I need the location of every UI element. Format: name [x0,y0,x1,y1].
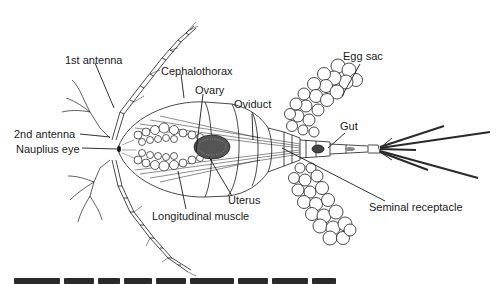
label-egg-sac: Egg sac [343,50,383,62]
label-oviduct: Oviduct [234,98,271,110]
label-seminal-receptacle: Seminal receptacle [369,201,463,213]
caudal-setae [380,126,490,178]
egg-sac-lower [289,163,357,245]
label-longitudinal-muscle: Longitudinal muscle [152,210,249,222]
copepod-diagram: 1st antenna Cephalothorax Ovary Oviduct … [0,0,502,284]
ovary-mass [194,135,230,159]
copepod-illustration [0,0,502,284]
label-nauplius-eye: Nauplius eye [16,143,80,155]
label-gut: Gut [340,120,358,132]
urosome-shape [300,140,380,158]
label-second-antenna: 2nd antenna [14,128,75,140]
label-first-antenna: 1st antenna [65,54,123,66]
figure-caption-clipped [14,278,354,284]
label-cephalothorax: Cephalothorax [161,65,233,77]
label-ovary: Ovary [195,84,224,96]
label-uterus: Uterus [228,194,260,206]
